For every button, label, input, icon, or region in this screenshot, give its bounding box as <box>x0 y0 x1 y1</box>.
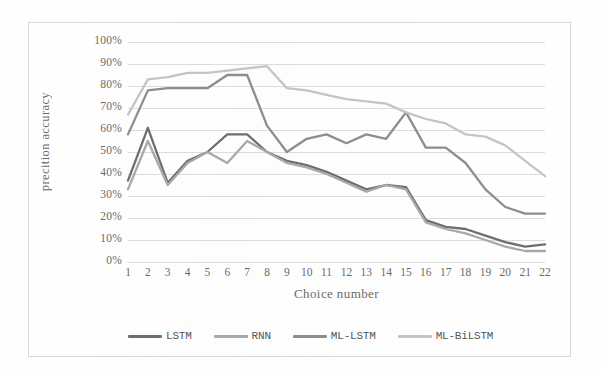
legend-label: RNN <box>252 330 271 342</box>
legend-item-ml-lstm[interactable]: ML-LSTM <box>293 330 376 342</box>
legend-swatch-icon <box>398 335 432 338</box>
series-line-ml-lstm <box>128 75 545 214</box>
legend-swatch-icon <box>128 335 162 338</box>
legend-label: LSTM <box>166 330 192 342</box>
legend-item-lstm[interactable]: LSTM <box>128 330 192 342</box>
legend-label: ML-BiLSTM <box>436 330 494 342</box>
x-axis-title: Choice number <box>128 286 545 302</box>
series-lines <box>0 0 604 376</box>
legend-swatch-icon <box>214 335 248 338</box>
chart-legend: LSTMRNNML-LSTMML-BiLSTM <box>128 330 548 342</box>
legend-item-ml-bilstm[interactable]: ML-BiLSTM <box>398 330 494 342</box>
legend-swatch-icon <box>293 335 327 338</box>
legend-label: ML-LSTM <box>331 330 376 342</box>
chart-plot-wrapper: precition accuracy 100%90%80%70%60%50%40… <box>0 0 604 376</box>
legend-item-rnn[interactable]: RNN <box>214 330 271 342</box>
